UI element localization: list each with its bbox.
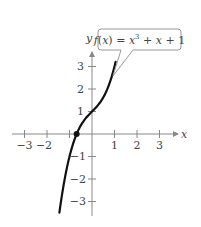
svg-text:−2: −2 (70, 173, 86, 186)
x-axis-label: x (181, 128, 188, 141)
function-curve (59, 62, 115, 213)
svg-text:2: 2 (77, 83, 84, 96)
svg-text:−1: −1 (70, 150, 86, 163)
function-graph: x y −3 −2 1 2 3 3 2 1 −1 −2 −3 (0, 0, 201, 227)
svg-text:3: 3 (156, 139, 163, 152)
y-axis-label: y (85, 32, 93, 45)
function-label: f(x) = x3 + x + 1 (93, 33, 185, 47)
svg-text:−3: −3 (70, 195, 86, 208)
function-callout: f(x) = x3 + x + 1 (93, 29, 185, 76)
svg-text:1: 1 (77, 105, 84, 118)
x-tick-labels: −3 −2 1 2 3 (16, 139, 163, 152)
svg-text:3: 3 (77, 60, 84, 73)
zero-point (74, 131, 80, 137)
svg-text:2: 2 (134, 139, 141, 152)
svg-text:−2: −2 (36, 139, 52, 152)
svg-text:−3: −3 (16, 139, 32, 152)
svg-text:1: 1 (111, 139, 118, 152)
